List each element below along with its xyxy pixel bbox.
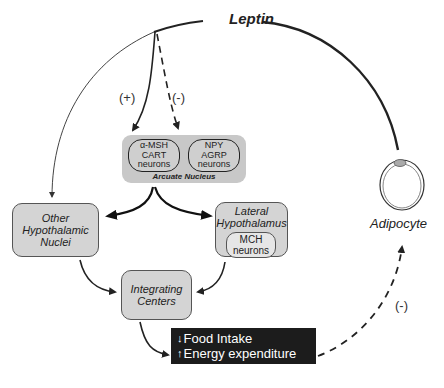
leptin-arc [262, 22, 398, 150]
feedback-arrow [318, 247, 402, 356]
food-intake-row: ↓ Food Intake [177, 331, 316, 346]
stimulatory-sign: (+) [119, 90, 135, 105]
arcuate-to-lateral-arrow [155, 187, 210, 216]
npy-agrp-neurons: NPY AGRP neurons [188, 139, 240, 172]
outcome-box: ↓ Food Intake ↑ Energy expenditure [171, 328, 316, 364]
up-arrow-icon: ↑ [177, 346, 183, 361]
mch-neurons: MCH neurons [226, 232, 276, 258]
leptin-label: Leptin [229, 10, 274, 27]
down-arrow-icon: ↓ [177, 331, 183, 346]
lateral-hypothalamus-box: Lateral Hypothalamus MCH neurons [215, 202, 288, 257]
adipocyte-cell-icon [380, 160, 424, 211]
energy-expenditure-row: ↑ Energy expenditure [177, 346, 316, 361]
arcuate-nucleus-label: Arcuate Nucleus [122, 172, 246, 181]
arcuate-nucleus-box: α-MSH CART neurons NPY AGRP neurons Arcu… [122, 135, 246, 183]
integrating-to-outcome-arrow [140, 322, 168, 355]
integrating-centers-box: Integrating Centers [121, 270, 192, 320]
feedback-sign: (-) [395, 298, 408, 313]
stimulatory-arrow [133, 32, 155, 130]
adipocyte-label: Adipocyte [370, 216, 427, 231]
inhibitory-sign: (-) [172, 90, 185, 105]
other-hypothalamic-nuclei-box: Other Hypothalamic Nuclei [12, 203, 99, 257]
inhibitory-arrow [157, 34, 178, 128]
other-to-integrating-arrow [80, 260, 115, 292]
arcuate-to-other-arrow [108, 187, 153, 216]
pomc-cart-neurons: α-MSH CART neurons [128, 139, 180, 172]
lateral-to-integrating-arrow [198, 262, 225, 292]
